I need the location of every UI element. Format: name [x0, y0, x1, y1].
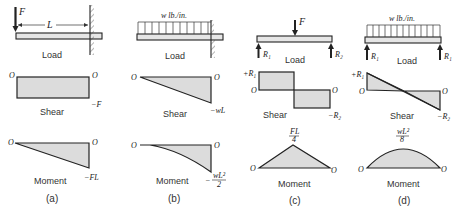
- shear-min-value-b: −wL: [210, 106, 226, 115]
- moment-max-denominator-d: 8: [400, 135, 404, 144]
- panel-caption-d: (d): [398, 195, 410, 206]
- shear-right-zero-d: O: [442, 87, 448, 96]
- shear-max-value-d: +R₁: [351, 70, 364, 79]
- shear-diagram-d: +R₁ O O −R₂ Shear: [351, 70, 450, 121]
- moment-right-zero-c: O: [331, 166, 337, 175]
- arrowhead-icon: [256, 43, 262, 49]
- moment-area-d: [367, 149, 440, 168]
- shear-min-value-a: −F: [91, 100, 101, 109]
- moment-min-value-a: −FL: [84, 173, 99, 182]
- arrowhead-icon: [328, 43, 334, 49]
- shear-min-value-c: −R₂: [328, 111, 341, 120]
- moment-label-a: Moment: [34, 176, 67, 186]
- moment-diagram-d: wL² 8 O O Moment: [358, 127, 447, 189]
- moment-right-zero-a: O: [92, 138, 98, 147]
- beam-a: [16, 33, 102, 39]
- load-diagram-d: w lb./in. R₁ R₁ Load: [364, 14, 452, 66]
- moment-diagram-c: FL 4 O O Moment: [250, 127, 337, 189]
- panel-d: w lb./in. R₁ R₁ Load +R₁ O O −R₂ Shear w…: [351, 14, 452, 206]
- moment-min-value-b: − wL² 2: [205, 171, 226, 189]
- moment-label-b: Moment: [156, 176, 189, 186]
- shear-left-zero-a: O: [9, 71, 15, 80]
- panel-a: F L Load O O −F Shear O O −FL Moment (a): [8, 5, 102, 204]
- moment-label-d: Moment: [387, 179, 420, 189]
- moment-min-sign-b: −: [205, 176, 210, 185]
- panel-caption-a: (a): [46, 193, 58, 204]
- shear-right-zero-c: O: [332, 86, 338, 95]
- load-diagram-a: F L Load: [13, 5, 103, 60]
- shear-diagram-c: +R₁ O O −R₂ Shear: [243, 69, 341, 120]
- shear-right-zero-b: O: [214, 73, 220, 82]
- reaction-right-label-d: R₁: [443, 52, 452, 61]
- load-diagram-c: F R₁ R₂ Load: [256, 16, 343, 65]
- reaction-left-label-c: R₁: [262, 50, 271, 59]
- shear-area-b: [140, 77, 211, 103]
- panel-caption-c: (c): [289, 195, 301, 206]
- shear-area-a: [17, 77, 89, 98]
- shear-right-zero-a: O: [92, 71, 98, 80]
- moment-max-value-d: wL² 8: [396, 127, 410, 144]
- distributed-load-d: [367, 25, 440, 37]
- wall-hatch-top-b: [211, 20, 214, 34]
- shear-label-c: Shear: [263, 110, 287, 120]
- moment-min-numerator-b: wL²: [213, 171, 226, 180]
- shear-diagram-a: O O −F Shear: [9, 71, 101, 117]
- moment-area-b: [140, 145, 211, 172]
- arrowhead-icon: [364, 44, 370, 50]
- moment-label-c: Moment: [278, 179, 311, 189]
- shear-left-zero-d: O: [359, 87, 365, 96]
- shear-left-zero-c: O: [251, 86, 257, 95]
- distributed-load-label-d: w lb./in.: [389, 14, 415, 23]
- shear-positive-area-c: [259, 72, 294, 90]
- panel-caption-b: (b): [168, 193, 180, 204]
- moment-area-c: [259, 145, 330, 168]
- beam-d: [365, 37, 441, 43]
- load-label-a: Load: [42, 50, 62, 60]
- force-label-c: F: [298, 16, 306, 27]
- moment-max-denominator-c: 4: [292, 135, 296, 144]
- moment-diagram-b: O O − wL² 2 Moment: [131, 141, 226, 189]
- arrowhead-icon: [292, 30, 298, 36]
- span-label-a: L: [46, 19, 53, 30]
- moment-right-zero-d: O: [441, 165, 447, 174]
- beam-b: [137, 34, 223, 40]
- panel-c: F R₁ R₂ Load +R₁ O O −R₂ Shear FL 4: [243, 16, 343, 206]
- shear-max-value-c: +R₁: [243, 69, 256, 78]
- reaction-right-label-c: R₂: [334, 50, 343, 59]
- load-label-d: Load: [397, 56, 417, 66]
- dim-arrow-icon: [18, 23, 22, 27]
- panel-b: w lb./in. Load O O −wL Shear O O − wL² 2…: [131, 11, 226, 204]
- arrowhead-icon: [437, 44, 443, 50]
- load-label-c: Load: [285, 55, 305, 65]
- wall-hatch-a: [90, 5, 94, 55]
- shear-min-value-d: −R₂: [437, 112, 450, 121]
- shear-label-a: Shear: [40, 107, 64, 117]
- load-label-b: Load: [165, 51, 185, 61]
- shear-label-d: Shear: [390, 111, 414, 121]
- moment-right-zero-b: O: [214, 141, 220, 150]
- shear-negative-area-c: [294, 90, 330, 108]
- beam-c: [257, 36, 332, 42]
- shear-label-b: Shear: [163, 109, 187, 119]
- force-label-a: F: [18, 6, 26, 17]
- reaction-left-label-d: R₁: [370, 52, 379, 61]
- beam-diagrams-figure: F L Load O O −F Shear O O −FL Moment (a): [0, 0, 453, 217]
- distributed-load-label-b: w lb./in.: [161, 11, 187, 20]
- shear-left-zero-b: O: [131, 73, 137, 82]
- distributed-load-b: [138, 22, 211, 34]
- moment-left-zero-b: O: [131, 141, 137, 150]
- load-diagram-b: w lb./in. Load: [137, 11, 223, 61]
- wall-hatch-b: [211, 40, 215, 58]
- moment-left-zero-a: O: [8, 138, 14, 147]
- moment-max-value-c: FL 4: [289, 127, 300, 144]
- moment-diagram-a: O O −FL Moment: [8, 138, 99, 186]
- moment-left-zero-d: O: [358, 165, 364, 174]
- arrowhead-icon: [13, 26, 19, 32]
- moment-left-zero-c: O: [250, 164, 256, 173]
- dim-arrow-icon: [84, 23, 88, 27]
- moment-min-denominator-b: 2: [217, 180, 221, 189]
- shear-diagram-b: O O −wL Shear: [131, 73, 226, 119]
- moment-area-a: [15, 143, 89, 168]
